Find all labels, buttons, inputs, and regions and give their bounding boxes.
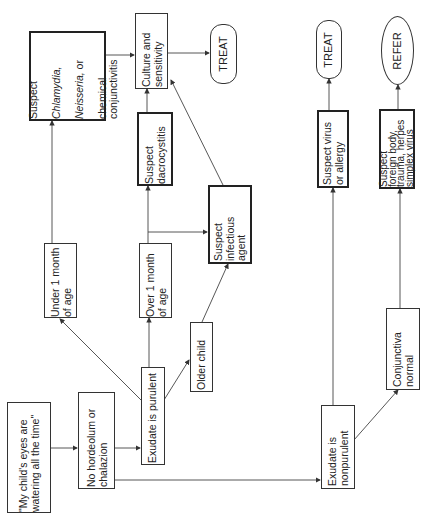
terminal-refer-label: REFER	[392, 26, 404, 76]
node-conjunctiva-normal-label: Conjunctiva normal	[392, 311, 415, 387]
node-under-1-month: Under 1 month of age	[44, 243, 77, 318]
node-older-child-label: Older child	[196, 324, 208, 390]
chlamydia-line-4: chemical conjunctivitis	[95, 59, 119, 119]
terminal-refer: REFER	[381, 16, 414, 85]
node-exudate-nonpurulent-label: Exudate is nonpurulent	[327, 408, 350, 486]
terminal-treat-2: TREAT	[316, 20, 342, 79]
chlamydia-line-1: Suspect	[26, 81, 38, 119]
node-suspect-chlamydia: Suspect Chlamydia, Neisseria, or chemica…	[29, 31, 106, 121]
node-exudate-purulent-label: Exudate is purulent	[147, 369, 159, 463]
node-older-child: Older child	[190, 322, 213, 392]
node-start: "My child's eyes are watering all the ti…	[7, 402, 51, 513]
node-suspect-infectious-agent-label: Suspect infectious agent	[213, 189, 248, 261]
node-suspect-infectious-agent: Suspect infectious agent	[208, 185, 252, 264]
node-culture-sensitivity-label: Culture and sensitivity	[140, 15, 163, 87]
node-suspect-foreign-body: Suspect foreign body, trauma, herpes sim…	[379, 109, 415, 189]
node-over-1-month-label: Over 1 month of age	[144, 245, 167, 317]
node-suspect-dacrocystitis-label: Suspect dacrocystitis	[144, 114, 167, 184]
terminal-treat-1: TREAT	[210, 24, 237, 84]
node-exudate-nonpurulent: Exudate is nonpurulent	[321, 405, 355, 489]
terminal-treat-1-label: TREAT	[218, 29, 230, 79]
chlamydia-line-3: Neisseria,	[72, 72, 84, 119]
chlamydia-line-3b: or	[72, 60, 84, 72]
terminal-treat-2-label: TREAT	[323, 25, 335, 75]
node-culture-sensitivity: Culture and sensitivity	[135, 13, 168, 89]
chlamydia-line-2: Chlamydia,	[49, 66, 61, 119]
node-exudate-purulent: Exudate is purulent	[141, 367, 165, 465]
node-under-1-month-label: Under 1 month of age	[49, 245, 72, 317]
node-over-1-month: Over 1 month of age	[139, 243, 172, 318]
node-suspect-foreign-body-label: Suspect foreign body, trauma, herpes sim…	[380, 111, 414, 187]
node-suspect-chlamydia-label: Suspect Chlamydia, Neisseria, or chemica…	[16, 33, 120, 119]
node-no-hordeolum: No hordeolum or chalazion	[78, 392, 115, 489]
node-conjunctiva-normal: Conjunctiva normal	[386, 308, 420, 390]
node-suspect-virus-allergy-label: Suspect virus or allergy	[322, 113, 345, 185]
node-suspect-dacrocystitis: Suspect dacrocystitis	[137, 112, 173, 186]
node-suspect-virus-allergy: Suspect virus or allergy	[317, 110, 349, 188]
node-start-label: "My child's eyes are watering all the ti…	[18, 404, 41, 512]
node-no-hordeolum-label: No hordeolum or chalazion	[85, 395, 108, 487]
